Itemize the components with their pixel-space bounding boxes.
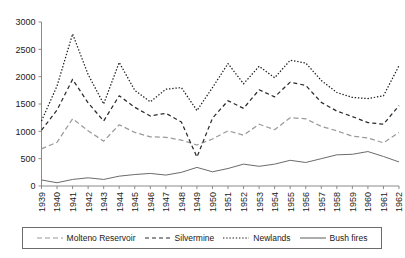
legend-item-molteno-reservoir: Molteno Reservoir	[37, 233, 136, 243]
svg-text:1944: 1944	[115, 192, 125, 212]
svg-text:1940: 1940	[52, 192, 62, 212]
svg-text:1961: 1961	[379, 192, 389, 212]
svg-text:1947: 1947	[161, 192, 171, 212]
svg-text:1949: 1949	[192, 192, 202, 212]
svg-text:1941: 1941	[68, 192, 78, 212]
svg-text:2000: 2000	[15, 72, 35, 82]
x-axis-tick-labels: 1939194019411942194319441945194619471948…	[37, 186, 405, 212]
legend-label: Bush fires	[330, 233, 368, 243]
dotted-line-icon	[223, 234, 249, 242]
dashed-line-icon	[37, 234, 63, 242]
svg-text:1952: 1952	[239, 192, 249, 212]
line-chart-plot: 050010001500200025003000 193919401941194…	[0, 0, 405, 258]
svg-text:1950: 1950	[208, 192, 218, 212]
svg-text:1956: 1956	[301, 192, 311, 212]
solid-line-icon	[300, 234, 326, 242]
svg-text:1942: 1942	[84, 192, 94, 212]
svg-text:1500: 1500	[15, 99, 35, 109]
chart-legend: Molteno Reservoir Silvermine Newlands Bu…	[22, 227, 382, 249]
svg-text:1958: 1958	[332, 192, 342, 212]
dashed-line-icon	[145, 234, 171, 242]
svg-text:1962: 1962	[394, 192, 404, 212]
legend-item-silvermine: Silvermine	[145, 233, 215, 243]
chart-figure: 050010001500200025003000 193919401941194…	[0, 0, 405, 258]
y-axis-tick-labels: 050010001500200025003000	[15, 17, 41, 191]
svg-text:3000: 3000	[15, 17, 35, 27]
svg-text:1959: 1959	[348, 192, 358, 212]
chart-axes	[42, 22, 400, 186]
svg-text:0: 0	[30, 181, 35, 191]
legend-label: Molteno Reservoir	[67, 233, 136, 243]
chart-series	[42, 34, 400, 183]
svg-text:1951: 1951	[223, 192, 233, 212]
legend-item-newlands: Newlands	[223, 233, 290, 243]
svg-text:1943: 1943	[99, 192, 109, 212]
svg-text:500: 500	[20, 154, 35, 164]
legend-label: Newlands	[253, 233, 290, 243]
svg-text:1948: 1948	[177, 192, 187, 212]
svg-text:1000: 1000	[15, 127, 35, 137]
svg-text:1945: 1945	[130, 192, 140, 212]
svg-text:1955: 1955	[286, 192, 296, 212]
svg-text:1953: 1953	[255, 192, 265, 212]
legend-label: Silvermine	[175, 233, 215, 243]
svg-text:1960: 1960	[363, 192, 373, 212]
svg-text:1954: 1954	[270, 192, 280, 212]
legend-item-bush-fires: Bush fires	[300, 233, 368, 243]
svg-text:2500: 2500	[15, 45, 35, 55]
svg-text:1939: 1939	[37, 192, 47, 212]
svg-text:1946: 1946	[146, 192, 156, 212]
svg-text:1957: 1957	[317, 192, 327, 212]
